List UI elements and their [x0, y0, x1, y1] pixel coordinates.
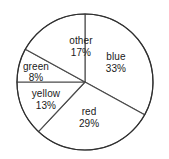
pie-slice-label-value-other: 17%: [69, 46, 92, 58]
pie-slice-label-value-yellow: 13%: [32, 99, 60, 111]
pie-slice-label-other: other17%: [69, 35, 92, 58]
pie-slice-label-name-green: green: [23, 60, 49, 72]
pie-slice-label-green: green8%: [23, 60, 49, 83]
pie-slice-label-yellow: yellow13%: [32, 88, 60, 111]
pie-slice-label-value-red: 29%: [79, 117, 99, 129]
pie-slice-label-name-blue: blue: [106, 51, 126, 63]
pie-slice-label-name-red: red: [79, 106, 99, 118]
pie-slice-label-name-other: other: [69, 35, 92, 47]
pie-slice-label-name-yellow: yellow: [32, 88, 60, 100]
pie-chart-figure: blue33%red29%yellow13%green8%other17%: [0, 0, 169, 159]
pie-slice-label-value-blue: 33%: [106, 62, 126, 74]
pie-slice-label-red: red29%: [79, 106, 99, 129]
pie-slice-label-blue: blue33%: [106, 51, 126, 74]
pie-slice-label-value-green: 8%: [23, 72, 49, 84]
